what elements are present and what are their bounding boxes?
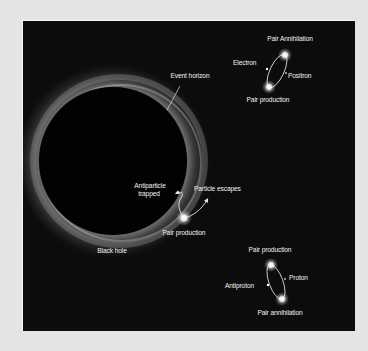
annihilation-spark-top xyxy=(278,48,292,62)
annihilation-spark-bottom xyxy=(275,292,289,306)
proton-pair-annihilation-label: Pair annihilation xyxy=(257,309,302,317)
antiproton-label: Antiproton xyxy=(225,282,254,290)
event-horizon-label: Event horizon xyxy=(170,72,209,80)
antiparticle-label-line1: Antiparticle xyxy=(134,182,165,190)
black-hole-label: Black hole xyxy=(97,247,126,255)
proton-pair-production-label: Pair production xyxy=(249,246,292,254)
positron-label: Positron xyxy=(288,72,311,80)
diagram-canvas xyxy=(23,21,355,331)
black-hole xyxy=(39,87,187,235)
diagram-panel xyxy=(22,20,355,331)
escape-pair-production-label: Pair production xyxy=(163,229,206,237)
particle-escapes-label: Particle escapes xyxy=(194,185,241,193)
electron-pair-annihilation-label: Pair Annihilation xyxy=(267,35,313,43)
antiparticle-label-line2: trapped xyxy=(138,190,160,198)
pair-production-spark xyxy=(176,210,192,226)
production-spark-bottom xyxy=(264,258,278,272)
electron-label: Electron xyxy=(233,59,256,67)
electron-pair-production-label: Pair production xyxy=(247,96,290,104)
production-spark-top xyxy=(262,80,276,94)
proton-label: Proton xyxy=(289,274,308,282)
